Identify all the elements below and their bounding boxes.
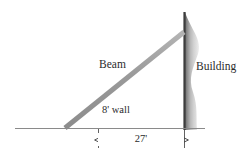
wall-height-label: 8' wall — [102, 105, 130, 116]
beam-label: Beam — [99, 59, 126, 71]
distance-label: 27' — [98, 133, 184, 146]
building-label: Building — [196, 61, 236, 73]
beam-building-diagram: Beam Building 8' wall 27' — [0, 0, 248, 158]
